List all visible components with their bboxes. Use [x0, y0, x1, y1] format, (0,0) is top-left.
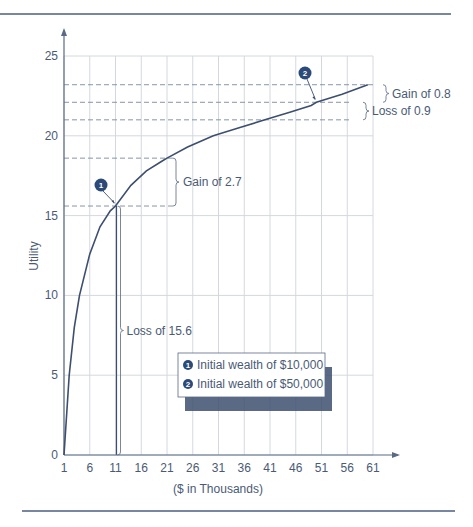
svg-text:51: 51 [315, 461, 329, 475]
x-axis-label: ($ in Thousands) [173, 482, 263, 496]
svg-text:Gain of 2.7: Gain of 2.7 [183, 175, 242, 189]
legend-item-1: 1 Initial wealth of $10,000 [183, 358, 323, 372]
svg-text:Loss of 15.6: Loss of 15.6 [127, 324, 193, 338]
svg-text:Gain of 0.8: Gain of 0.8 [392, 87, 451, 101]
svg-text:5: 5 [51, 368, 58, 382]
svg-text:Initial wealth of $10,000: Initial wealth of $10,000 [197, 358, 323, 372]
svg-text:Initial wealth of $50,000: Initial wealth of $50,000 [197, 377, 323, 391]
y-tick-labels: 0510152025 [45, 49, 59, 462]
y-axis-label: Utility [27, 241, 41, 270]
utility-chart: 161116212631364146515661 0510152025 Gain… [0, 0, 473, 527]
svg-text:6: 6 [86, 461, 93, 475]
svg-text:15: 15 [45, 209, 59, 223]
svg-text:1: 1 [186, 361, 191, 370]
x-tick-labels: 161116212631364146515661 [61, 461, 380, 475]
svg-text:20: 20 [45, 129, 59, 143]
svg-text:31: 31 [212, 461, 226, 475]
svg-text:10: 10 [45, 288, 59, 302]
svg-text:36: 36 [238, 461, 252, 475]
svg-text:2: 2 [303, 69, 308, 78]
svg-text:61: 61 [366, 461, 380, 475]
svg-text:1: 1 [99, 181, 104, 190]
svg-text:56: 56 [341, 461, 355, 475]
svg-text:2: 2 [186, 380, 191, 389]
svg-text:41: 41 [263, 461, 277, 475]
svg-text:0: 0 [51, 448, 58, 462]
svg-text:1: 1 [61, 461, 68, 475]
svg-text:16: 16 [135, 461, 149, 475]
svg-text:11: 11 [109, 461, 122, 475]
svg-text:26: 26 [186, 461, 200, 475]
svg-text:Loss of 0.9: Loss of 0.9 [372, 104, 431, 118]
svg-text:46: 46 [289, 461, 303, 475]
legend-item-2: 2 Initial wealth of $50,000 [183, 377, 323, 391]
svg-text:25: 25 [45, 49, 59, 63]
svg-text:21: 21 [160, 461, 174, 475]
legend: 1 Initial wealth of $10,000 2 Initial we… [178, 353, 332, 411]
